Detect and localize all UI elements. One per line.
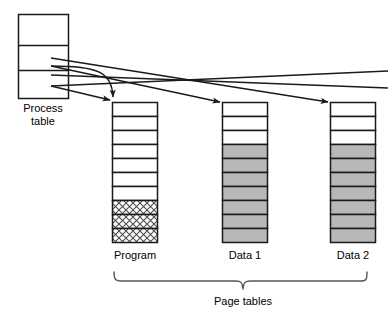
data2-page-table-label: Data 2 bbox=[337, 249, 369, 261]
program-cell-9 bbox=[113, 229, 158, 243]
data2-cell-3 bbox=[331, 145, 376, 159]
data1-cell-4 bbox=[223, 159, 268, 173]
data1-cell-3 bbox=[223, 145, 268, 159]
program-page-table-label: Program bbox=[114, 249, 156, 261]
program-cell-1 bbox=[113, 117, 158, 131]
data1-cell-1 bbox=[223, 117, 268, 131]
pointer-line-tail-a bbox=[51, 75, 388, 88]
data2-cell-8 bbox=[331, 215, 376, 229]
data1-page-table: Data 1 bbox=[223, 103, 268, 262]
data2-page-table: Data 2 bbox=[331, 103, 376, 262]
data1-cell-7 bbox=[223, 201, 268, 215]
data1-cell-8 bbox=[223, 215, 268, 229]
data1-cell-0 bbox=[223, 103, 268, 117]
data2-cell-7 bbox=[331, 201, 376, 215]
data2-cell-2 bbox=[331, 131, 376, 145]
page-table-diagram: Process table bbox=[0, 0, 388, 322]
process-table-label-line2: table bbox=[31, 115, 55, 127]
data2-cell-4 bbox=[331, 159, 376, 173]
page-tables-brace bbox=[114, 272, 367, 289]
data2-cell-1 bbox=[331, 117, 376, 131]
data2-cell-9 bbox=[331, 229, 376, 243]
data2-cell-6 bbox=[331, 187, 376, 201]
data1-cell-6 bbox=[223, 187, 268, 201]
data1-page-table-label: Data 1 bbox=[229, 249, 261, 261]
program-cell-5 bbox=[113, 173, 158, 187]
program-cell-2 bbox=[113, 131, 158, 145]
data1-cell-5 bbox=[223, 173, 268, 187]
process-table-label-line1: Process bbox=[23, 102, 63, 114]
program-cell-8 bbox=[113, 215, 158, 229]
program-page-table: Program bbox=[113, 103, 158, 262]
process-table: Process table bbox=[19, 15, 69, 128]
data2-cell-0 bbox=[331, 103, 376, 117]
data1-cell-9 bbox=[223, 229, 268, 243]
program-cell-7 bbox=[113, 201, 158, 215]
program-cell-3 bbox=[113, 145, 158, 159]
program-cell-4 bbox=[113, 159, 158, 173]
diagram-canvas: Process table bbox=[0, 0, 388, 322]
page-tables-caption: Page tables bbox=[214, 295, 273, 307]
pointer-arrows bbox=[51, 58, 388, 102]
program-cell-6 bbox=[113, 187, 158, 201]
data2-cell-5 bbox=[331, 173, 376, 187]
program-cell-0 bbox=[113, 103, 158, 117]
data1-cell-2 bbox=[223, 131, 268, 145]
page-tables-brace-group: Page tables bbox=[114, 272, 367, 307]
